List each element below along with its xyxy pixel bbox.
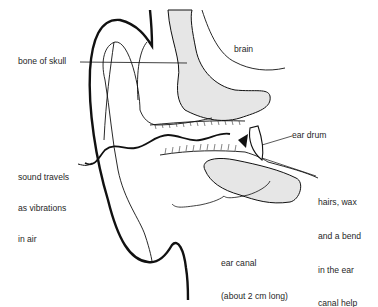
skull-leader [80,62,187,63]
protection-label-line1: hairs, wax [318,197,361,208]
inner-helix-line [103,42,152,262]
crus-line [104,42,114,140]
brain-outline [202,10,285,70]
protection-label-line2: and a bend [318,231,361,242]
skull-bone-shape [168,10,270,120]
ear-drum-shape [250,126,263,160]
ear-diagram: bone of skull brain ear drum sound trave… [0,0,378,307]
sound-label-line3: in air [18,234,69,244]
bone-of-skull-label: bone of skull [18,56,66,66]
sound-label-line1: sound travels [18,172,69,182]
sound-wave [85,134,230,165]
sound-label: sound travels as vibrations in air [18,151,69,265]
ear-canal-label-line1: ear canal [221,258,288,269]
protection-label-line3: in the ear [318,265,361,276]
ear-drum-leader [262,136,292,145]
sound-label-line2: as vibrations [18,203,69,213]
protection-label: hairs, wax and a bend in the ear canal h… [318,175,361,307]
brain-label: brain [234,44,253,54]
ear-canal-label-line2: (about 2 cm long) [221,291,288,302]
ear-canal-label: ear canal (about 2 cm long) [221,236,288,307]
lower-bone-shape [204,158,301,202]
protection-label-line4: canal help [318,298,361,307]
ear-drum-label: ear drum [292,130,326,140]
sound-arrow-icon [238,134,248,148]
